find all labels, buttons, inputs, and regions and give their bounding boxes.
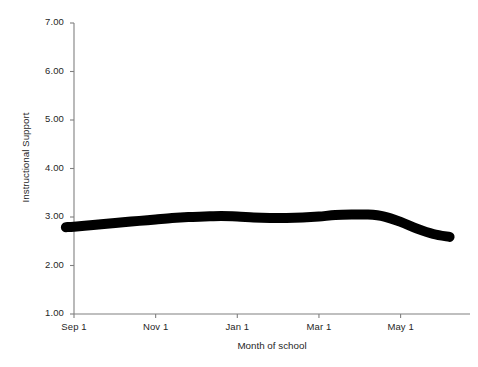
x-tick-label: Nov 1 <box>126 321 186 332</box>
x-tick-label: Mar 1 <box>289 321 349 332</box>
x-axis-title: Month of school <box>74 340 470 351</box>
x-tick-label: May 1 <box>371 321 431 332</box>
y-tick-label: 7.00 <box>22 16 64 27</box>
y-tick-label: 2.00 <box>22 259 64 270</box>
x-axis-ticks <box>74 314 401 318</box>
y-tick-label: 1.00 <box>22 307 64 318</box>
y-axis-title: Instructional Support <box>20 88 31 228</box>
y-axis-ticks <box>70 23 74 314</box>
y-tick-label: 6.00 <box>22 65 64 76</box>
x-tick-label: Jan 1 <box>207 321 267 332</box>
x-tick-label: Sep 1 <box>44 321 104 332</box>
data-series-line <box>66 214 450 236</box>
plot-area <box>0 0 478 367</box>
chart-figure: 1.002.003.004.005.006.007.00 Sep 1Nov 1J… <box>0 0 478 367</box>
